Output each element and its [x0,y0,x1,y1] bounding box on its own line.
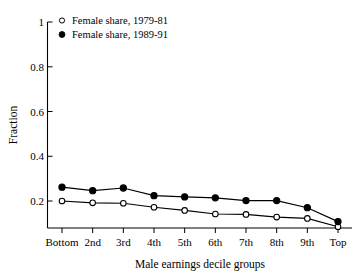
legend-open-circle-icon [59,18,64,23]
x-tick-label: 5th [178,236,193,248]
data-point-filled [212,195,218,201]
x-axis-title: Male earnings decile groups [135,258,265,271]
x-tick-label: 3rd [116,236,131,248]
data-point-open [121,200,127,206]
x-tick-label: 6th [208,236,223,248]
data-point-filled [335,218,341,224]
legend-filled-circle-icon [59,32,65,38]
data-point-open [59,198,65,204]
legend-label-1989: Female share, 1989-91 [72,29,168,40]
y-axis-title: Fraction [7,106,19,145]
data-point-filled [304,205,310,211]
x-tick-label: 4th [147,236,162,248]
x-tick-label: 2nd [84,236,101,248]
data-point-open [243,212,249,218]
data-point-open [274,214,280,220]
x-tick-label: 7th [239,236,254,248]
x-tick-label: Bottom [45,236,78,248]
legend-label-1979: Female share, 1979-81 [72,15,168,26]
data-point-filled [274,197,280,203]
data-point-filled [90,188,96,194]
data-point-open [182,208,188,214]
x-tick-label: 8th [270,236,285,248]
line-chart: 1 0.8 0.6 0.4 0.2 Fraction Bottom2nd3rd4… [0,0,361,278]
data-point-filled [120,185,126,191]
y-tick-label: 0.6 [30,106,44,118]
x-tick-label: 9th [300,236,315,248]
data-point-filled [59,184,65,190]
data-point-open [213,211,219,217]
data-point-filled [243,197,249,203]
y-tick-label: 0.4 [30,150,44,162]
chart-figure: 1 0.8 0.6 0.4 0.2 Fraction Bottom2nd3rd4… [0,0,361,278]
x-tick-label: Top [330,236,347,248]
y-tick-label: 0.8 [30,61,44,73]
data-point-open [305,216,311,222]
data-point-filled [151,193,157,199]
data-point-filled [182,194,188,200]
data-point-open [90,200,96,206]
y-tick-label: 1 [39,16,45,28]
data-point-open [151,204,157,210]
y-tick-label: 0.2 [30,195,44,207]
